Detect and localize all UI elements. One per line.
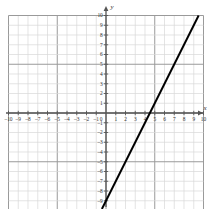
x-tick-label: –4 (63, 116, 70, 122)
x-tick-label: 1 (114, 116, 117, 122)
y-tick-label: 9 (100, 22, 103, 28)
x-tick-label: –3 (73, 116, 80, 122)
x-tick-label: 2 (124, 116, 127, 122)
x-tick-label: 3 (134, 116, 137, 122)
y-tick-label: –4 (96, 149, 103, 155)
x-tick-label: 6 (163, 116, 166, 122)
y-tick-label: –8 (96, 188, 103, 194)
x-tick-label: 10 (201, 116, 207, 122)
y-tick-label: –5 (96, 159, 103, 165)
x-tick-label: –5 (54, 116, 61, 122)
y-tick-label: 6 (100, 51, 103, 57)
y-tick-label: –2 (96, 129, 103, 135)
y-tick-label: 10 (97, 12, 103, 18)
x-tick-label: 5 (153, 116, 156, 122)
graph-canvas: –10–9–8–7–6–5–4–3–2–1012345678910 –9–8–7… (0, 0, 212, 209)
x-tick-label: 7 (173, 116, 176, 122)
x-tick-label: 8 (183, 116, 186, 122)
x-tick-label: –10 (3, 116, 12, 122)
y-tick-label: 1 (100, 100, 103, 106)
y-tick-label: 2 (100, 90, 103, 96)
y-tick-label: 3 (100, 81, 103, 87)
y-tick-label: –1 (96, 120, 103, 126)
x-tick-label: –9 (15, 116, 22, 122)
y-tick-label: 8 (100, 32, 103, 38)
y-tick-label: –9 (96, 198, 103, 204)
y-tick-label: 5 (100, 61, 103, 67)
y-tick-label: 4 (100, 71, 103, 77)
y-tick-label: –7 (96, 178, 103, 184)
x-tick-label: –8 (24, 116, 31, 122)
x-tick-label: –7 (34, 116, 41, 122)
y-tick-label: –6 (96, 168, 103, 174)
x-tick-label: –2 (83, 116, 90, 122)
x-tick-label: –6 (44, 116, 51, 122)
y-tick-label: –3 (96, 139, 103, 145)
y-tick-label: 7 (100, 42, 103, 48)
coordinate-plane-graph: –10–9–8–7–6–5–4–3–2–1012345678910 –9–8–7… (0, 0, 212, 209)
x-tick-label: 9 (192, 116, 195, 122)
